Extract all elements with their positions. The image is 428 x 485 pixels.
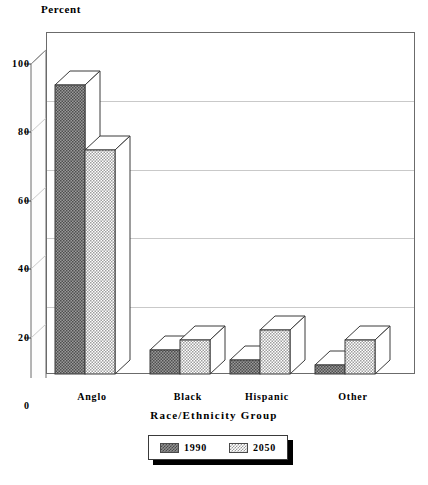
x-tick-label-hispanic: Hispanic — [227, 391, 307, 402]
bar-other-2050 — [345, 326, 390, 374]
x-tick-label-anglo: Anglo — [52, 391, 132, 402]
x-tick-label-black: Black — [148, 391, 228, 402]
x-tick-label-other: Other — [313, 391, 393, 402]
legend-swatch-1990-icon — [160, 443, 179, 453]
x-axis-title: Race/Ethnicity Group — [0, 409, 428, 421]
bar-chart: Percent 100 80 60 40 20 0 — [0, 0, 428, 485]
legend-item-2050: 2050 — [229, 442, 276, 453]
x-axis-tick-labels: Anglo Black Hispanic Other — [0, 391, 428, 407]
legend-label-2050: 2050 — [253, 442, 276, 453]
legend-swatch-2050-icon — [229, 443, 248, 453]
legend-label-1990: 1990 — [184, 442, 207, 453]
chart-legend: 1990 2050 — [148, 435, 288, 460]
bar-black-2050 — [180, 326, 225, 374]
legend-item-1990: 1990 — [160, 442, 207, 453]
bar-hispanic-2050 — [260, 316, 305, 374]
bar-anglo-2050 — [85, 136, 130, 374]
